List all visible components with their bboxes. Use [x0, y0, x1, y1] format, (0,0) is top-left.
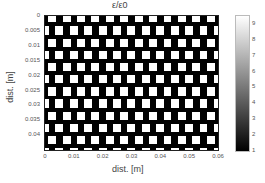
heatmap-cell	[207, 39, 215, 47]
y-axis-label: dist. [m]	[5, 71, 15, 103]
heatmap-cell	[192, 63, 200, 71]
colorbar-tick-label: 3	[252, 115, 255, 121]
heatmap-cell	[156, 51, 164, 59]
heatmap-cell	[120, 136, 128, 144]
heatmap-cell	[185, 75, 193, 83]
heatmap-cell	[192, 16, 200, 22]
heatmap-cell	[70, 51, 78, 59]
y-tick-label: 0.035	[0, 116, 40, 122]
heatmap-cell	[99, 26, 107, 34]
heatmap-cell	[99, 124, 107, 132]
heatmap-cell	[214, 75, 218, 83]
heatmap-cell	[77, 63, 85, 71]
heatmap-cell	[63, 39, 71, 47]
heatmap-plot-area	[45, 16, 218, 150]
heatmap-cell	[200, 75, 208, 83]
heatmap-cell	[63, 63, 71, 71]
heatmap-cell	[135, 39, 143, 47]
heatmap-cell	[91, 87, 99, 95]
heatmap-cell	[164, 87, 172, 95]
heatmap-cell	[120, 87, 128, 95]
heatmap-cell	[106, 112, 114, 120]
heatmap-cell	[171, 148, 179, 150]
heatmap-cell	[214, 148, 218, 150]
y-tick-label: 0.005	[0, 27, 40, 33]
heatmap-cell	[127, 26, 135, 34]
colorbar-tick-label: 7	[252, 52, 255, 58]
heatmap-cell	[164, 136, 172, 144]
heatmap-cell	[48, 112, 56, 120]
heatmap-cell	[48, 39, 56, 47]
heatmap-cell	[55, 75, 63, 83]
heatmap-cell	[91, 63, 99, 71]
heatmap-cell	[185, 124, 193, 132]
heatmap-cell	[127, 99, 135, 107]
colorbar-tick-label: 4	[252, 99, 255, 105]
heatmap-cell	[99, 99, 107, 107]
heatmap-cell	[45, 148, 49, 150]
heatmap-cell	[45, 75, 49, 83]
heatmap-cell	[113, 124, 121, 132]
heatmap-cell	[48, 87, 56, 95]
heatmap-cell	[45, 124, 49, 132]
heatmap-cell	[200, 99, 208, 107]
heatmap-cell	[127, 148, 135, 150]
heatmap-cell	[99, 75, 107, 83]
heatmap-cell	[156, 148, 164, 150]
x-tick-label: 0.05	[174, 153, 204, 159]
heatmap-cell	[63, 136, 71, 144]
heatmap-cell	[200, 26, 208, 34]
y-tick-label: 0.04	[0, 131, 40, 137]
heatmap-cell	[192, 87, 200, 95]
heatmap-cell	[149, 112, 157, 120]
heatmap-cell	[127, 51, 135, 59]
colorbar	[236, 16, 249, 151]
colorbar-tick-label: 5	[252, 83, 255, 89]
heatmap-cell	[113, 99, 121, 107]
heatmap-cell	[84, 99, 92, 107]
heatmap-cell	[106, 16, 114, 22]
heatmap-cell	[164, 112, 172, 120]
x-tick-label: 0.01	[59, 153, 89, 159]
heatmap-cell	[178, 136, 186, 144]
heatmap-cell	[106, 39, 114, 47]
heatmap-cell	[127, 75, 135, 83]
heatmap-cell	[48, 63, 56, 71]
heatmap-cell	[99, 148, 107, 150]
heatmap-cell	[156, 99, 164, 107]
heatmap-cell	[156, 75, 164, 83]
heatmap-cell	[178, 87, 186, 95]
heatmap-cell	[214, 51, 218, 59]
heatmap-cell	[120, 39, 128, 47]
heatmap-cell	[45, 26, 49, 34]
heatmap-cell	[70, 75, 78, 83]
y-tick-label: 0.01	[0, 42, 40, 48]
heatmap-cell	[149, 39, 157, 47]
heatmap-cell	[84, 148, 92, 150]
heatmap-cell	[70, 148, 78, 150]
heatmap-cell	[113, 75, 121, 83]
heatmap-cell	[106, 87, 114, 95]
colorbar-tick-label: 8	[252, 36, 255, 42]
heatmap-cell	[164, 39, 172, 47]
heatmap-cell	[84, 51, 92, 59]
heatmap-cell	[113, 51, 121, 59]
heatmap-cell	[70, 99, 78, 107]
heatmap-cell	[149, 63, 157, 71]
heatmap-cell	[63, 112, 71, 120]
heatmap-cell	[185, 99, 193, 107]
x-tick-label: 0.02	[88, 153, 118, 159]
heatmap-cell	[63, 87, 71, 95]
heatmap-cell	[55, 26, 63, 34]
heatmap-cell	[55, 99, 63, 107]
heatmap-cell	[91, 136, 99, 144]
heatmap-cell	[207, 136, 215, 144]
heatmap-cell	[142, 148, 150, 150]
heatmap-cell	[178, 112, 186, 120]
heatmap-cell	[214, 124, 218, 132]
heatmap-cell	[135, 87, 143, 95]
heatmap-cell	[178, 63, 186, 71]
colorbar-tick-label: 2	[252, 131, 255, 137]
x-tick-label: 0.04	[145, 153, 175, 159]
heatmap-cell	[63, 16, 71, 22]
